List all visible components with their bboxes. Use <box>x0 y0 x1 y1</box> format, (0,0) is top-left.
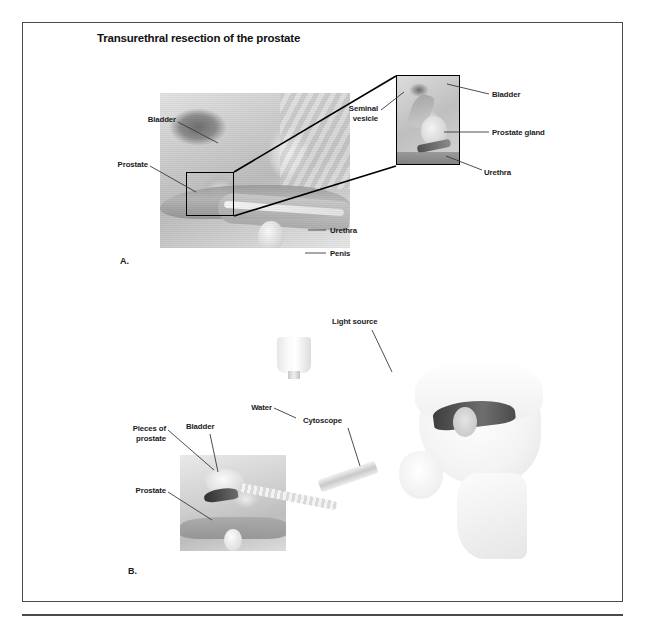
label-urethra-a: Urethra <box>330 226 357 236</box>
label-prostate-b: Prostate <box>96 486 166 496</box>
label-prostate-a: Prostate <box>76 160 148 170</box>
bottom-divider <box>22 614 623 616</box>
label-cytoscope: Cytoscope <box>303 416 342 426</box>
label-urethra-inset: Urethra <box>484 168 511 178</box>
label-seminal-vesicle: Seminal vesicle <box>330 104 378 123</box>
surgeon-ear <box>453 407 477 437</box>
figure-title: Transurethral resection of the prostate <box>97 32 300 44</box>
image-grain <box>160 93 350 248</box>
label-prostate-gland-inset: Prostate gland <box>492 128 545 138</box>
surgeon-neck <box>457 473 527 559</box>
panel-a-letter: A. <box>120 256 129 266</box>
label-pieces-of-prostate: Pieces of prostate <box>96 424 166 443</box>
label-light-source: Light source <box>332 317 378 327</box>
label-bladder-b: Bladder <box>186 422 214 432</box>
label-bladder-inset: Bladder <box>492 90 520 100</box>
label-water: Water <box>228 403 272 413</box>
inset-base-shadow <box>397 152 460 164</box>
region-of-interest-box <box>186 172 234 216</box>
magnified-inset-image <box>396 75 460 165</box>
panel-a-anatomy-image <box>160 93 350 248</box>
testis-b <box>224 529 242 551</box>
water-container <box>277 337 311 373</box>
water-container-neck <box>288 371 300 379</box>
surgeon-figure <box>405 355 580 560</box>
label-bladder-a: Bladder <box>108 115 176 125</box>
surgeon-hand <box>399 451 443 499</box>
label-penis-a: Penis <box>330 249 350 259</box>
panel-b-anatomy-image <box>180 455 286 551</box>
panel-b-letter: B. <box>128 566 137 576</box>
